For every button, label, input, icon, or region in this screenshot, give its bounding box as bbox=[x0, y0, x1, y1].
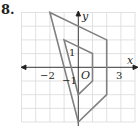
y-axis-label: y bbox=[81, 10, 89, 23]
coordinate-plane: y x O −2 3 1 −1 bbox=[0, 0, 138, 131]
x-tick-neg2: −2 bbox=[40, 70, 55, 81]
x-axis-label: x bbox=[127, 54, 134, 67]
x-tick-3: 3 bbox=[116, 70, 122, 81]
x-axis-right-arrow-icon bbox=[133, 65, 138, 70]
y-tick-neg1: −1 bbox=[62, 75, 77, 86]
origin-label: O bbox=[81, 69, 90, 82]
y-tick-1: 1 bbox=[69, 47, 75, 58]
y-axis-up-arrow-icon bbox=[76, 11, 81, 16]
